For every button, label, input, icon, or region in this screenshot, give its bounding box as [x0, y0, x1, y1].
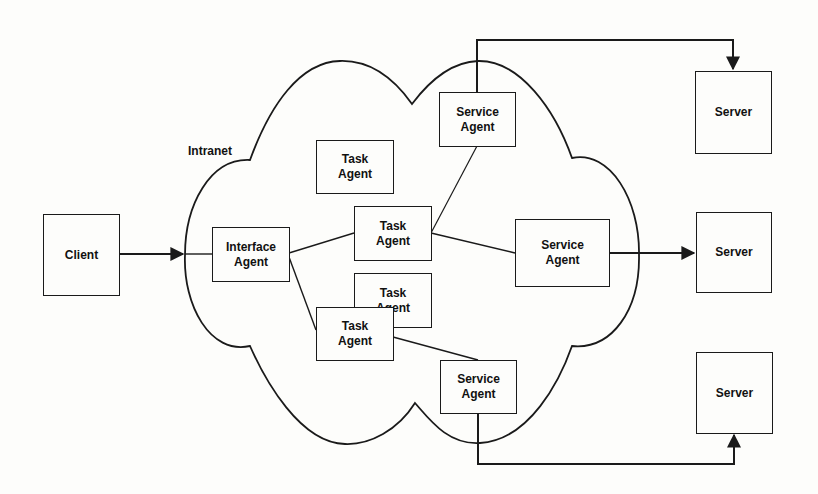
- task-agent-label-1: Task: [380, 219, 406, 234]
- intranet-label: Intranet: [188, 144, 232, 158]
- service-agent-label-2: Agent: [462, 387, 496, 402]
- service-agent-label-1: Service: [456, 105, 499, 120]
- task-agent-node-middle[interactable]: Task Agent: [354, 206, 432, 261]
- task-agent-node-top[interactable]: Task Agent: [316, 140, 394, 194]
- interface-agent-label-2: Agent: [234, 255, 268, 270]
- task-agent-label-2: Agent: [376, 234, 410, 249]
- task-agent-label-1: Task: [342, 152, 368, 167]
- task-agent-node-front[interactable]: Task Agent: [316, 307, 394, 361]
- task-agent-label-2: Agent: [338, 167, 372, 182]
- service-agent-label-1: Service: [541, 238, 584, 253]
- server-node-top[interactable]: Server: [695, 71, 772, 154]
- client-label: Client: [65, 248, 98, 263]
- client-node[interactable]: Client: [43, 214, 120, 296]
- task-agent-label-2: Agent: [338, 334, 372, 349]
- server-label: Server: [715, 245, 752, 260]
- service-agent-label-2: Agent: [461, 120, 495, 135]
- server-node-middle[interactable]: Server: [696, 212, 772, 293]
- interface-agent-label-1: Interface: [226, 240, 276, 255]
- service-agent-node-top[interactable]: Service Agent: [439, 92, 516, 147]
- agent-architecture-diagram: Intranet Client Interface Agent Task Age…: [0, 0, 818, 494]
- task-agent-label-1: Task: [342, 319, 368, 334]
- service-agent-label-1: Service: [457, 372, 500, 387]
- service-agent-node-bottom[interactable]: Service Agent: [440, 360, 517, 414]
- service-agent-label-2: Agent: [546, 253, 580, 268]
- server-label: Server: [716, 386, 753, 401]
- server-label: Server: [715, 105, 752, 120]
- task-agent-label-1: Task: [380, 286, 406, 301]
- service-agent-node-middle[interactable]: Service Agent: [515, 219, 610, 287]
- interface-agent-node[interactable]: Interface Agent: [212, 227, 290, 282]
- server-node-bottom[interactable]: Server: [696, 352, 773, 434]
